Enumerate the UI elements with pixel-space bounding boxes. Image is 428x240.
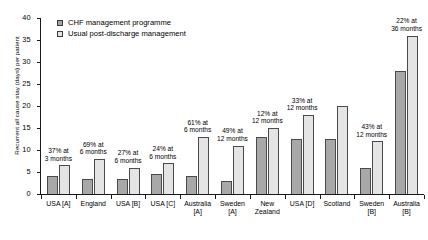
x-axis-label: USA [D] [285,200,320,217]
bar-annotation: 61% at6 months [184,119,211,134]
legend-item-usual: Usual post-discharge management [57,28,186,39]
y-tick: 10 [37,150,41,151]
y-tick: 25 [37,84,41,85]
x-axis-label: Scotland [320,200,355,217]
bar-group: 24% at6 months [145,19,180,194]
x-tick [250,195,251,199]
legend-swatch-icon-usual [57,31,63,37]
y-tick-label: 20 [22,102,30,109]
y-tick: 35 [37,40,41,41]
bar-chart: Recurrent all cause stay (days) per pati… [0,0,428,240]
x-tick [389,195,390,199]
bar-group: 61% at6 months [180,19,215,194]
x-tick [180,195,181,199]
x-axis-label: Sweden [B] [354,200,389,217]
bar-annotation: 69% at6 months [80,141,107,156]
x-axis-label: Australia [A] [180,200,215,217]
y-tick: 20 [37,106,41,107]
bar-chf[interactable] [325,139,336,194]
x-tick [320,195,321,199]
bar-annotation: 43% at12 months [356,123,387,138]
bar-group: 37% at3 months [41,19,76,194]
x-tick [285,195,286,199]
y-tick-label: 0 [26,190,30,197]
bar-chf[interactable] [291,139,302,194]
x-axis-labels: USA [A]EnglandUSA [B]USA [C]Australia [A… [41,200,424,217]
bar-annotation: 24% at6 months [149,145,176,160]
legend: CHF management programme Usual post-disc… [57,17,186,39]
y-tick-label: 30 [22,58,30,65]
bar-group: 49% at12 months [215,19,250,194]
x-tick [215,195,216,199]
x-axis-label: USA [A] [41,200,76,217]
bar-chf[interactable] [47,176,58,194]
bar-chf[interactable] [82,179,93,194]
x-tick [145,195,146,199]
bar-usual[interactable] [303,115,314,194]
bar-annotation: 27% at6 months [114,149,141,164]
bar-group: 33% at12 months [285,19,320,194]
x-axis-label: USA [C] [145,200,180,217]
bar-annotation: 33% at12 months [287,97,318,112]
legend-label-usual: Usual post-discharge management [68,28,186,39]
x-axis-label: England [76,200,111,217]
y-axis-title: Recurrent all cause stay (days) per pati… [13,6,20,186]
y-tick: 0 [37,194,41,195]
x-axis-label: USA [B] [111,200,146,217]
x-axis-label: Australia [B] [389,200,424,217]
y-tick-label: 40 [22,14,30,21]
bar-usual[interactable] [198,137,209,194]
x-axis-label: Sweden [A] [215,200,250,217]
y-tick-label: 35 [22,36,30,43]
bar-group: 27% at6 months [111,19,146,194]
y-tick: 15 [37,128,41,129]
plot-area: 0510152025303540 37% at3 months69% at6 m… [40,19,424,195]
legend-item-chf: CHF management programme [57,17,186,28]
bar-chf[interactable] [360,168,371,194]
bar-usual[interactable] [268,128,279,194]
bar-annotation: 12% at12 months [252,110,283,125]
bar-chf[interactable] [151,174,162,194]
bar-usual[interactable] [163,163,174,194]
bar-usual[interactable] [233,146,244,194]
bar-group: 12% at12 months [250,19,285,194]
y-tick: 30 [37,62,41,63]
bar-usual[interactable] [337,106,348,194]
y-tick-label: 10 [22,146,30,153]
x-tick [424,195,425,199]
bar-chf[interactable] [117,179,128,194]
bar-annotation: 49% at12 months [217,127,248,142]
x-tick [354,195,355,199]
bar-chf[interactable] [256,137,267,194]
y-tick: 40 [37,18,41,19]
y-tick-label: 15 [22,124,30,131]
y-tick-label: 25 [22,80,30,87]
bar-chf[interactable] [395,71,406,194]
bar-usual[interactable] [372,141,383,194]
bar-usual[interactable] [59,165,70,194]
bar-chf[interactable] [221,181,232,194]
legend-swatch-icon-chf [57,20,63,26]
x-tick [41,195,42,199]
legend-label-chf: CHF management programme [68,17,171,28]
y-tick-label: 5 [26,168,30,175]
bar-group: 43% at12 months [354,19,389,194]
bar-annotation: 37% at3 months [45,147,72,162]
bar-groups: 37% at3 months69% at6 months27% at6 mont… [41,19,424,194]
bar-group [320,19,355,194]
bar-usual[interactable] [407,36,418,194]
x-axis-label: New Zealand [250,200,285,217]
bar-group: 22% at36 months [389,19,424,194]
y-tick: 5 [37,172,41,173]
bar-chf[interactable] [186,176,197,194]
bar-annotation: 22% at36 months [391,17,422,32]
x-tick [111,195,112,199]
x-tick [76,195,77,199]
bar-group: 69% at6 months [76,19,111,194]
bar-usual[interactable] [129,168,140,194]
bar-usual[interactable] [94,159,105,194]
